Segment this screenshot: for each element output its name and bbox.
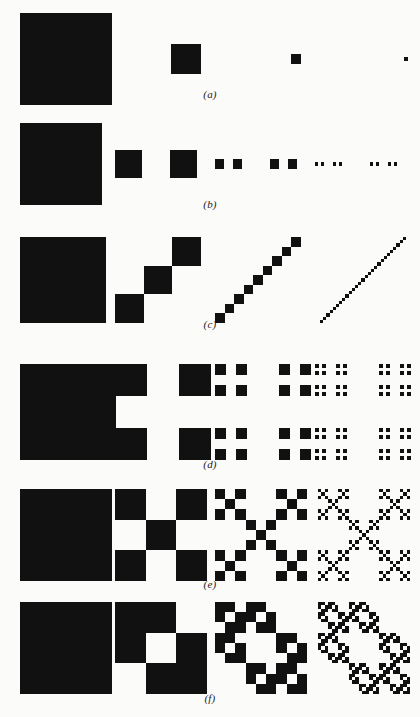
fractal-cell: [396, 567, 399, 570]
fractal-cell: [366, 605, 369, 608]
fractal-cell: [383, 670, 386, 673]
fractal-cell: [215, 509, 225, 519]
fractal-cell: [343, 371, 347, 375]
fractal-cell: [246, 663, 256, 673]
fractal-cell: [373, 629, 376, 632]
fractal-cell: [266, 674, 276, 684]
fractal-cell: [328, 622, 331, 625]
fractal-f-iteration-2: [215, 602, 307, 694]
fractal-cell: [400, 516, 403, 519]
fractal-canvas: [215, 602, 307, 694]
fractal-cell: [379, 392, 383, 396]
fractal-cell: [246, 540, 256, 550]
fractal-cell: [376, 540, 379, 543]
fractal-cell: [321, 643, 324, 646]
fractal-cell: [403, 513, 406, 516]
fractal-cell: [342, 660, 345, 663]
fractal-canvas: [318, 489, 410, 581]
fractal-cell: [396, 657, 399, 660]
fractal-cell: [318, 557, 321, 560]
fractal-cell: [256, 530, 266, 540]
fractal-cell: [338, 550, 341, 553]
fractal-cell: [400, 646, 403, 649]
fractal-cell: [338, 571, 341, 574]
fractal-cell: [328, 499, 331, 502]
fractal-cell: [276, 643, 286, 653]
fractal-cell: [386, 667, 389, 670]
fractal-cell: [369, 687, 372, 690]
fractal-c-iteration-1: [115, 237, 201, 323]
fractal-cell: [345, 571, 348, 574]
fractal-canvas: [215, 489, 307, 581]
fractal-cell: [359, 687, 362, 690]
fractal-cell: [393, 633, 396, 636]
fractal-cell: [318, 616, 321, 619]
fractal-cell: [379, 677, 382, 680]
fractal-cell: [318, 496, 321, 499]
fractal-cell: [246, 674, 256, 684]
fractal-cell: [318, 605, 321, 608]
fractal-cell: [345, 509, 348, 512]
fractal-cell: [321, 513, 324, 516]
fractal-cell: [361, 278, 364, 281]
fractal-cell: [345, 516, 348, 519]
fractal-cell: [328, 506, 331, 509]
fractal-cell: [352, 674, 355, 677]
fractal-cell: [352, 680, 355, 683]
fractal-cell: [373, 674, 376, 677]
fractal-cell: [390, 636, 393, 639]
fractal-cell: [355, 526, 358, 529]
fractal-row-d: [0, 364, 420, 460]
fractal-cell: [325, 489, 328, 492]
fractal-cell: [373, 544, 376, 547]
fractal-e-iteration-0: [20, 489, 112, 581]
fractal-cell: [236, 428, 247, 439]
fractal-cell: [342, 554, 345, 557]
fractal-cell: [383, 633, 386, 636]
fractal-cell: [403, 653, 406, 656]
fractal-cell: [403, 680, 406, 683]
fractal-cell: [386, 677, 389, 680]
fractal-cell: [376, 626, 379, 629]
fractal-cell: [146, 602, 177, 633]
fractal-cell: [266, 540, 276, 550]
fractal-cell: [345, 496, 348, 499]
fractal-cell: [321, 492, 324, 495]
fractal-cell: [215, 633, 225, 643]
fractal-cell: [376, 629, 379, 632]
fractal-cell: [403, 660, 406, 663]
fractal-cell: [343, 435, 347, 439]
fractal-cell: [352, 609, 355, 612]
fractal-cell: [246, 520, 256, 530]
fractal-cell: [179, 428, 211, 460]
fractal-cell: [144, 266, 173, 295]
fractal-cell: [336, 304, 339, 307]
fractal-cell: [339, 162, 342, 165]
fractal-cell: [321, 162, 324, 165]
fractal-cell: [355, 285, 358, 288]
fractal-cell: [366, 629, 369, 632]
fractal-cell: [336, 428, 340, 432]
fractal-cell: [235, 612, 245, 622]
fractal-cell: [362, 629, 365, 632]
fractal-row-f: [0, 602, 420, 694]
fractal-cell: [332, 653, 335, 656]
fractal-cell: [322, 449, 326, 453]
fractal-cell: [335, 657, 338, 660]
fractal-cell: [345, 294, 348, 297]
fractal-cell: [345, 550, 348, 553]
fractal-cell: [352, 544, 355, 547]
fractal-cell: [390, 499, 393, 502]
fractal-cell: [266, 520, 276, 530]
fractal-cell: [332, 609, 335, 612]
fractal-cell: [225, 633, 235, 643]
fractal-cell: [390, 663, 393, 666]
fractal-cell: [400, 657, 403, 660]
fractal-cell: [315, 162, 318, 165]
fractal-cell: [403, 643, 406, 646]
fractal-cell: [266, 622, 276, 632]
fractal-cell: [276, 509, 286, 519]
fractal-cell: [300, 428, 311, 439]
fractal-cell: [404, 57, 407, 60]
fractal-cell: [379, 674, 382, 677]
